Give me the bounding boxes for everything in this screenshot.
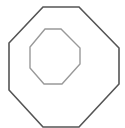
nested-octagons-diagram — [0, 0, 125, 128]
outer-octagon — [9, 7, 119, 127]
inner-octagon — [30, 29, 80, 84]
